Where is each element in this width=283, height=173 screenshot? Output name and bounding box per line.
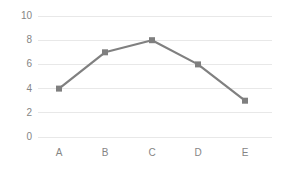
y-tick-label-4: 4 <box>8 84 32 94</box>
data-point-markers <box>56 37 248 104</box>
x-tick-label-A: A <box>47 148 71 158</box>
data-point-E <box>242 98 248 104</box>
series-line-1 <box>59 40 245 100</box>
y-tick-label-6: 6 <box>8 59 32 69</box>
y-tick-label-10: 10 <box>8 11 32 21</box>
data-point-A <box>56 86 62 92</box>
x-tick-label-D: D <box>186 148 210 158</box>
data-point-B <box>102 49 108 55</box>
y-tick-label-2: 2 <box>8 108 32 118</box>
x-tick-label-E: E <box>233 148 257 158</box>
line-chart: 0246810 ABCDE <box>0 0 283 173</box>
data-point-D <box>195 61 201 67</box>
y-tick-label-0: 0 <box>8 132 32 142</box>
x-tick-label-B: B <box>93 148 117 158</box>
x-tick-label-C: C <box>140 148 164 158</box>
y-tick-label-8: 8 <box>8 35 32 45</box>
data-point-C <box>149 37 155 43</box>
